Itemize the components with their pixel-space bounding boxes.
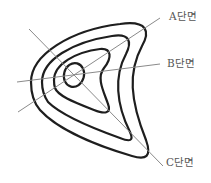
section-label-b: B단면 [167, 57, 195, 69]
section-line-b [17, 64, 160, 82]
section-label-c: C단면 [166, 156, 194, 168]
section-line-a [18, 18, 160, 112]
contour-diagram: A단면 B단면 C단면 [0, 0, 211, 183]
section-label-a: A단면 [168, 10, 197, 22]
